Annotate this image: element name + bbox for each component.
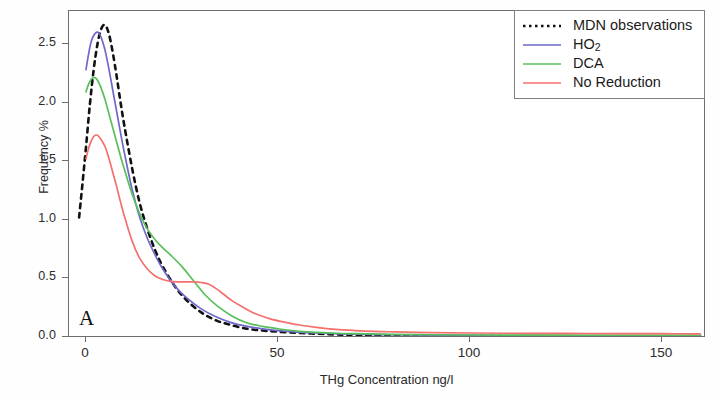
legend-line-swatch <box>522 58 562 70</box>
y-tick-mark <box>62 102 68 103</box>
y-axis-title: Frequency % <box>37 97 51 217</box>
y-tick-label: 0.0 <box>20 328 56 342</box>
x-tick-mark <box>277 336 278 342</box>
x-tick-mark <box>469 336 470 342</box>
x-axis-line <box>68 336 705 337</box>
legend-line-swatch <box>522 77 562 89</box>
legend-label: DCA <box>573 56 604 71</box>
panel-label: A <box>79 306 94 331</box>
legend-item: No Reduction <box>522 73 697 92</box>
legend-item: DCA <box>522 54 697 73</box>
y-tick-mark <box>62 277 68 278</box>
legend-label: No Reduction <box>573 75 661 90</box>
x-axis-title: THg Concentration ng/l <box>68 372 705 387</box>
y-tick-label: 0.5 <box>20 269 56 283</box>
legend-line-swatch <box>522 20 562 32</box>
y-tick-mark <box>62 336 68 337</box>
legend-item: MDN observations <box>522 16 697 35</box>
legend-item: HO2 <box>522 35 697 54</box>
legend-label: MDN observations <box>573 18 692 33</box>
legend: MDN observationsHO2DCANo Reduction <box>514 10 705 99</box>
x-tick-label: 50 <box>252 345 302 360</box>
y-tick-mark <box>62 43 68 44</box>
x-tick-mark <box>85 336 86 342</box>
y-tick-mark <box>62 219 68 220</box>
y-tick-mark <box>62 160 68 161</box>
series-line <box>86 135 700 334</box>
x-tick-mark <box>661 336 662 342</box>
series-line <box>86 78 700 336</box>
legend-label-subscript: 2 <box>595 41 601 53</box>
x-tick-label: 0 <box>60 345 110 360</box>
x-tick-label: 150 <box>636 345 686 360</box>
legend-label: HO2 <box>573 37 601 53</box>
x-tick-label: 100 <box>444 345 494 360</box>
figure-panel-a: 0.00.51.01.52.02.5 050100150 Frequency %… <box>0 0 714 401</box>
y-tick-label: 2.5 <box>20 35 56 49</box>
legend-line-swatch <box>522 39 562 51</box>
